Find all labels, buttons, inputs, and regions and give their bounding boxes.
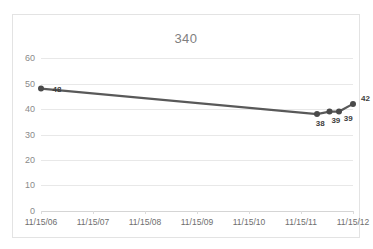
xtick-label-6: 11/15/12 — [337, 217, 369, 227]
data-series-340 — [41, 58, 353, 211]
data-point-marker — [327, 109, 333, 115]
xtick-mark-1 — [93, 211, 94, 214]
ytick-label-10: 10 — [25, 180, 35, 190]
xtick-label-5: 11/15/11 — [285, 217, 317, 227]
data-point-marker — [350, 101, 356, 107]
plot-area: 60 50 40 30 20 10 0 11/15/06 11/15/07 11… — [41, 58, 353, 211]
ytick-label-60: 60 — [25, 53, 35, 63]
data-label-0: 48 — [52, 84, 61, 93]
chart-title: 340 — [13, 31, 359, 46]
ytick-label-50: 50 — [25, 79, 35, 89]
ytick-label-30: 30 — [25, 130, 35, 140]
chart-frame: 340 60 50 40 30 20 10 0 11/15/06 11/15/0… — [12, 14, 360, 238]
ytick-label-20: 20 — [25, 155, 35, 165]
data-point-marker — [38, 86, 44, 92]
xtick-label-4: 11/15/10 — [233, 217, 265, 227]
xtick-mark-6 — [353, 211, 354, 214]
data-label-2: 39 — [331, 115, 340, 124]
data-label-4: 42 — [361, 93, 370, 102]
ytick-label-40: 40 — [25, 104, 35, 114]
xtick-label-1: 11/15/07 — [77, 217, 109, 227]
data-point-marker — [336, 109, 342, 115]
xtick-label-2: 11/15/08 — [129, 217, 161, 227]
xtick-mark-4 — [249, 211, 250, 214]
xtick-mark-0 — [41, 211, 42, 214]
xtick-mark-3 — [197, 211, 198, 214]
data-label-1: 38 — [316, 119, 325, 128]
xtick-label-3: 11/15/09 — [181, 217, 213, 227]
xtick-mark-5 — [301, 211, 302, 214]
data-point-marker — [314, 111, 320, 117]
xtick-label-0: 11/15/06 — [25, 217, 57, 227]
xtick-mark-2 — [145, 211, 146, 214]
data-label-3: 39 — [344, 114, 353, 123]
series-line — [41, 89, 353, 115]
ytick-label-0: 0 — [30, 206, 35, 216]
